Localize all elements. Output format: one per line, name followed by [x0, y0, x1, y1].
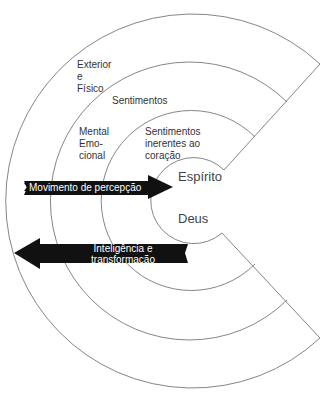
- center-label-spirit: Espírito: [178, 169, 222, 184]
- center-label-god: Deus: [178, 211, 208, 226]
- ring-label-second: Sentimentos: [112, 95, 168, 107]
- arrow-label-line: transformação: [68, 254, 178, 265]
- perception-arrow-label: Movimento de percepção: [29, 182, 147, 193]
- upper-cut-line: [224, 64, 320, 170]
- ring-label-line: coração: [145, 150, 201, 162]
- ring-label-line: Exterior: [77, 59, 111, 71]
- ring-label-line: Sentimentos: [145, 126, 201, 138]
- second-arc: [50, 62, 287, 340]
- ring-label-inner: Sentimentos inerentes ao coração: [145, 126, 201, 162]
- outer-arc: [6, 14, 320, 388]
- ring-label-line: Sentimentos: [112, 95, 168, 107]
- ring-label-line: inerentes ao: [145, 138, 201, 150]
- lower-cut-line: [222, 233, 320, 338]
- ring-label-line: Mental: [79, 126, 109, 138]
- ring-label-outer: Exterior e Físico: [77, 59, 111, 95]
- intelligence-arrow-label: Inteligência e transformação: [68, 243, 178, 265]
- ring-label-third: Mental Emo- cional: [79, 126, 109, 162]
- ring-label-line: Físico: [77, 83, 111, 95]
- ring-label-line: cional: [79, 150, 109, 162]
- concentric-arcs-diagram: [0, 0, 331, 417]
- ring-label-line: e: [77, 71, 111, 83]
- ring-label-line: Emo-: [79, 138, 109, 150]
- arrow-label-line: Inteligência e: [68, 243, 178, 254]
